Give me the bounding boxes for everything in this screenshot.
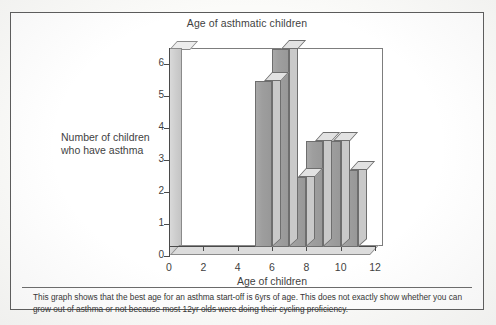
y-tick-label: 5 (146, 89, 164, 100)
y-tick (164, 224, 170, 225)
y-tick (164, 64, 170, 65)
bar-side (358, 162, 367, 247)
x-tick-label: 12 (365, 261, 385, 273)
y-tick-label: 3 (146, 153, 164, 164)
y-axis-title: Number of children who have asthma (61, 131, 156, 157)
x-tick-label: 10 (331, 261, 351, 273)
bar-side (289, 41, 298, 247)
bar-side (341, 133, 350, 247)
x-tick (375, 246, 376, 251)
x-tick (203, 246, 204, 251)
x-tick-label: 0 (159, 261, 179, 273)
x-tick-label: 6 (262, 261, 282, 273)
y-tick (164, 160, 170, 161)
chart-title: Age of asthmatic children (11, 17, 483, 29)
y-tick-label: 2 (146, 185, 164, 196)
bar-face (255, 81, 272, 247)
y-tick (164, 128, 170, 129)
x-axis-title: Age of children (161, 275, 383, 287)
figure-frame: Age of asthmatic children Number of chil… (10, 12, 484, 310)
x-tick-label: 8 (296, 261, 316, 273)
plot-area: 0123456 024681012 (161, 39, 383, 255)
y-tick (164, 256, 170, 257)
y-tick-label: 4 (146, 121, 164, 132)
bar-side (323, 133, 332, 247)
caption-divider (22, 287, 472, 288)
y-tick-label: 6 (146, 57, 164, 68)
bar (255, 81, 272, 247)
x-tick (169, 246, 170, 251)
bar-side (306, 169, 315, 247)
y-tick (164, 96, 170, 97)
x-tick-label: 2 (193, 261, 213, 273)
bar-side (272, 73, 281, 247)
figure-caption: This graph shows that the best age for a… (33, 292, 465, 315)
y-tick-label: 1 (146, 217, 164, 228)
x-tick (238, 246, 239, 251)
plot-left-wall (169, 48, 182, 255)
screenshot-page: Age of asthmatic children Number of chil… (0, 0, 496, 325)
x-tick-label: 4 (228, 261, 248, 273)
y-tick-label: 0 (146, 249, 164, 260)
y-tick (164, 192, 170, 193)
